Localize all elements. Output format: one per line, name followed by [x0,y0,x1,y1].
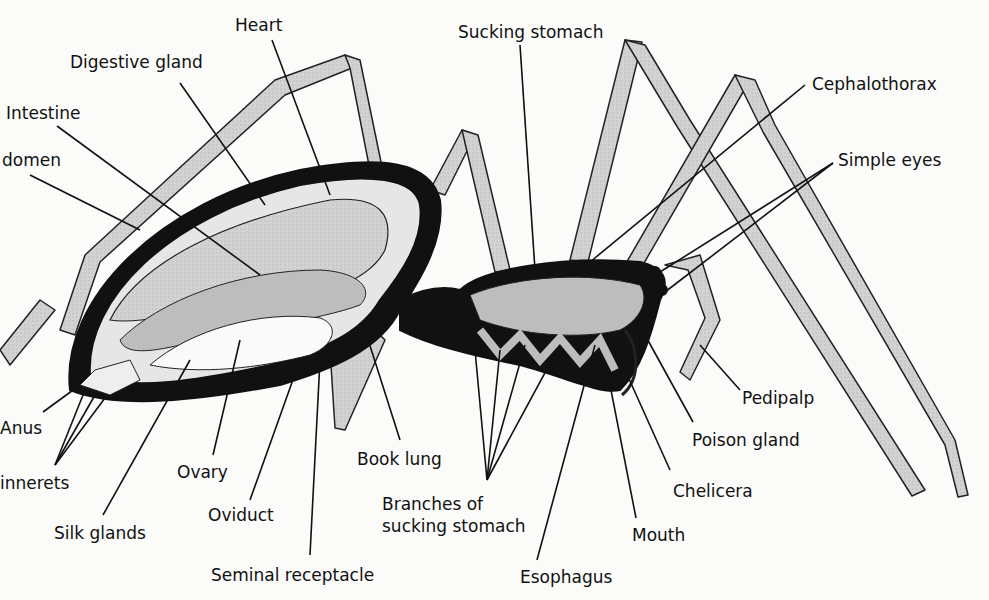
label-silk-glands: Silk glands [54,523,146,543]
label-poison-gland: Poison gland [692,430,800,450]
label-spinnerets: innerets [0,473,69,493]
label-oviduct: Oviduct [208,505,274,525]
label-abdomen: domen [2,150,61,170]
label-branches-line2: sucking stomach [382,515,526,537]
spider-anatomy-diagram: Heart Digestive gland Intestine domen Su… [0,0,989,600]
label-branches-of-sucking-stomach: Branches of sucking stomach [382,493,526,537]
abdomen [69,162,440,401]
label-book-lung: Book lung [357,449,442,469]
label-esophagus: Esophagus [520,567,612,587]
label-simple-eyes: Simple eyes [838,150,941,170]
label-pedipalp: Pedipalp [742,388,814,408]
label-digestive-gland: Digestive gland [70,52,203,72]
label-mouth: Mouth [632,525,685,545]
label-heart: Heart [235,15,282,35]
label-ovary: Ovary [177,462,228,482]
label-sucking-stomach: Sucking stomach [458,22,603,42]
label-anus: Anus [0,418,42,438]
label-seminal-receptacle: Seminal receptacle [211,565,374,585]
label-branches-line1: Branches of [382,493,526,515]
label-cephalothorax: Cephalothorax [812,74,937,94]
label-chelicera: Chelicera [673,481,753,501]
label-intestine: Intestine [6,103,80,123]
